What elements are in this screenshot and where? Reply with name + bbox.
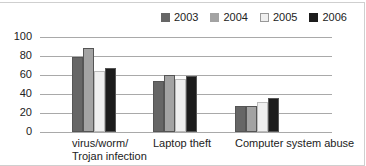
bar-2005: [257, 102, 268, 132]
legend-item-2005: 2005: [260, 11, 297, 23]
y-tick-label: 40: [6, 87, 32, 99]
legend-item-2003: 2003: [161, 11, 198, 23]
bar-2003: [235, 106, 246, 132]
legend-swatch: [260, 13, 269, 22]
plot-area: 020406080100virus/worm/Trojan infectionL…: [40, 37, 332, 132]
gridline: [40, 132, 332, 133]
x-label-line: Computer system abuse: [235, 137, 354, 150]
y-tick-label: 0: [6, 125, 32, 137]
legend-label: 2005: [273, 11, 297, 23]
y-tick-label: 20: [6, 106, 32, 118]
bar-2006: [105, 68, 116, 132]
bar-2004: [83, 48, 94, 132]
legend-label: 2006: [322, 11, 346, 23]
x-category-label: virus/worm/Trojan infection: [72, 137, 147, 163]
y-tick-label: 100: [6, 30, 32, 42]
bar-2003: [153, 81, 164, 132]
x-category-label: Computer system abuse: [235, 137, 354, 150]
bar-2003: [72, 57, 83, 132]
legend-swatch: [309, 13, 318, 22]
bar-2006: [268, 98, 279, 132]
bar-2005: [94, 71, 105, 132]
x-label-line: virus/worm/: [72, 137, 147, 150]
legend-item-2004: 2004: [210, 11, 247, 23]
legend-swatch: [161, 13, 170, 22]
y-tick-label: 80: [6, 49, 32, 61]
chart-legend: 2003200420052006: [161, 11, 347, 23]
bar-2004: [246, 106, 257, 132]
bar-2004: [164, 75, 175, 132]
x-label-line: Trojan infection: [72, 150, 147, 163]
legend-label: 2004: [223, 11, 247, 23]
x-category-label: Laptop theft: [153, 137, 211, 150]
y-tick-label: 60: [6, 68, 32, 80]
x-label-line: Laptop theft: [153, 137, 211, 150]
bar-2005: [175, 79, 186, 132]
legend-swatch: [210, 13, 219, 22]
gridline: [40, 37, 332, 38]
bar-2006: [186, 76, 197, 132]
legend-item-2006: 2006: [309, 11, 346, 23]
legend-label: 2003: [174, 11, 198, 23]
